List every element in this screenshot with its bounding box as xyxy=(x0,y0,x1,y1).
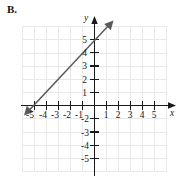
coordinate-plane: -5 -4 -3 -2 -1 1 2 3 4 5 5 4 3 2 1 -2 -3… xyxy=(0,0,187,181)
plotted-line xyxy=(24,21,114,116)
y-tick-label: 5 xyxy=(82,35,87,45)
y-axis-arrow xyxy=(91,16,97,24)
y-axis-label: y xyxy=(83,13,89,23)
x-tick-label: 1 xyxy=(104,110,109,120)
y-tick-label: 1 xyxy=(82,88,87,98)
graph-screenshot: B. xyxy=(0,0,187,181)
x-tick-label: -4 xyxy=(39,110,47,120)
x-tick-label: 4 xyxy=(140,110,145,120)
x-tick-label: -5 xyxy=(26,110,34,120)
x-tick-label: 2 xyxy=(116,110,121,120)
graph-svg: -5 -4 -3 -2 -1 1 2 3 4 5 5 4 3 2 1 -2 -3… xyxy=(0,0,187,181)
y-tick-label: -2 xyxy=(81,114,89,124)
y-tick-label: 4 xyxy=(82,48,87,58)
x-tick-label: -2 xyxy=(63,110,71,120)
x-tick-label: -3 xyxy=(51,110,59,120)
y-tick-label: 2 xyxy=(82,75,87,85)
y-tick-label: -5 xyxy=(81,154,89,164)
y-tick-label: -4 xyxy=(81,141,89,151)
x-tick-label: 3 xyxy=(128,110,133,120)
x-axis-label: x xyxy=(169,108,175,118)
y-tick-label: 3 xyxy=(82,61,87,71)
y-tick-label: -3 xyxy=(81,128,89,138)
x-tick-label: 5 xyxy=(152,110,157,120)
x-axis xyxy=(21,102,176,108)
